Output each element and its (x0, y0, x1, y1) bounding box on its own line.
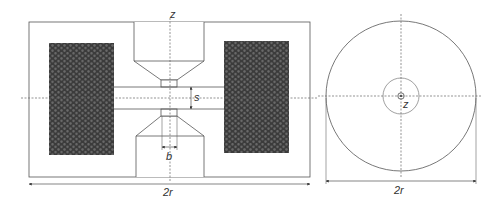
label-b: b (166, 150, 172, 162)
label-z-top: z (402, 98, 409, 110)
left-coil (49, 43, 114, 155)
label-2r-top: 2r (393, 184, 405, 196)
label-2r-side: 2r (162, 186, 174, 198)
bottom-pole-piece (136, 116, 204, 177)
top-neck (161, 80, 177, 87)
label-z-side: z (169, 8, 176, 20)
label-s: s (194, 91, 200, 103)
side-view: b s z 2r (21, 8, 318, 198)
right-coil (224, 41, 289, 153)
top-pole-piece (134, 22, 204, 80)
diagram-canvas: b s z 2r z 2r (0, 0, 502, 204)
bottom-neck (161, 109, 177, 116)
top-view: z 2r (318, 14, 482, 196)
